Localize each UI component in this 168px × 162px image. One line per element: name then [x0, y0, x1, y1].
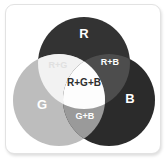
label-r-plus-g-plus-b: R+G+B — [67, 77, 101, 88]
label-r: R — [79, 26, 89, 41]
venn-diagram-stage: R G B R+G R+B G+B R+G+B — [6, 5, 161, 154]
label-r-plus-g: R+G — [49, 60, 68, 70]
venn-diagram-svg: R G B R+G R+B G+B R+G+B — [6, 5, 161, 154]
label-b: B — [125, 91, 134, 106]
label-g: G — [37, 97, 47, 112]
label-r-plus-b: R+B — [101, 57, 120, 67]
label-g-plus-b: G+B — [76, 111, 95, 121]
venn-diagram-card: R G B R+G R+B G+B R+G+B — [5, 4, 161, 154]
